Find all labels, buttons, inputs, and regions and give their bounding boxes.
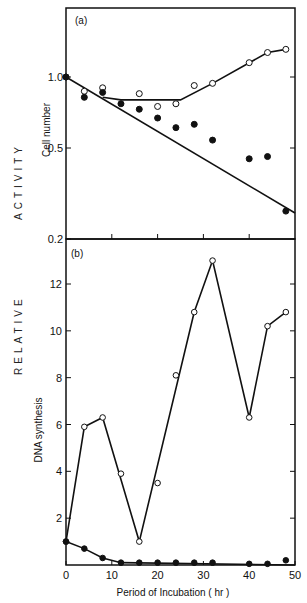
filled-marker bbox=[118, 560, 124, 566]
panel-a-label: (a) bbox=[75, 15, 87, 26]
filled-marker bbox=[81, 94, 87, 100]
x-tick-label: 30 bbox=[197, 569, 209, 581]
series-line bbox=[66, 542, 295, 565]
filled-marker bbox=[136, 560, 142, 566]
filled-marker bbox=[82, 546, 88, 552]
y-tick-label: 2 bbox=[56, 512, 62, 524]
open-marker bbox=[191, 309, 197, 315]
open-marker bbox=[191, 83, 197, 89]
filled-marker bbox=[246, 156, 252, 162]
filled-marker bbox=[173, 560, 179, 566]
filled-marker bbox=[100, 89, 106, 95]
filled-marker bbox=[191, 560, 197, 566]
filled-marker bbox=[155, 115, 161, 121]
open-marker bbox=[265, 323, 271, 329]
open-marker bbox=[118, 471, 124, 477]
y-tick-label: 1.0 bbox=[48, 71, 63, 83]
open-marker bbox=[173, 101, 179, 107]
y-tick-label: 12 bbox=[50, 278, 62, 290]
open-marker bbox=[246, 60, 252, 66]
y-label-activity: ACTIVITY bbox=[13, 143, 24, 220]
filled-marker bbox=[63, 539, 69, 545]
open-marker bbox=[210, 258, 216, 264]
open-marker bbox=[136, 539, 142, 545]
y-tick-label: 8 bbox=[56, 372, 62, 384]
x-axis-label: Period of Incubation ( hr ) bbox=[117, 587, 230, 598]
open-marker bbox=[155, 480, 161, 486]
panel-a-frame bbox=[66, 8, 295, 239]
panel-b-dna-synthesis: (b)2468101201020304050DNA synthesis bbox=[33, 239, 301, 581]
panel-b-label: (b) bbox=[71, 248, 83, 259]
filled-marker bbox=[283, 558, 289, 564]
open-marker bbox=[82, 424, 88, 430]
filled-marker bbox=[283, 208, 289, 214]
fit-line bbox=[103, 49, 286, 100]
open-marker bbox=[155, 103, 161, 109]
x-tick-label: 40 bbox=[243, 569, 255, 581]
filled-marker bbox=[118, 101, 124, 107]
fit-line bbox=[66, 77, 295, 213]
open-marker bbox=[265, 50, 271, 56]
figure-labels: ACTIVITY RELATIVE Period of Incubation (… bbox=[13, 143, 229, 598]
figure: (a)0.20.51.0Cell number (b)2468101201020… bbox=[0, 0, 307, 603]
x-tick-label: 0 bbox=[63, 569, 69, 581]
open-marker bbox=[210, 80, 216, 86]
filled-marker bbox=[191, 121, 197, 127]
open-marker bbox=[246, 415, 252, 421]
panel-a-cell-number: (a)0.20.51.0Cell number bbox=[41, 8, 295, 245]
open-marker bbox=[136, 91, 142, 97]
open-marker bbox=[81, 88, 87, 94]
x-tick-label: 10 bbox=[106, 569, 118, 581]
filled-marker bbox=[210, 560, 216, 566]
filled-marker bbox=[63, 74, 69, 80]
x-tick-label: 20 bbox=[151, 569, 163, 581]
filled-marker bbox=[155, 560, 161, 566]
filled-marker bbox=[136, 106, 142, 112]
x-tick-label: 50 bbox=[289, 569, 301, 581]
open-marker bbox=[283, 309, 289, 315]
y-label-relative: RELATIVE bbox=[13, 295, 24, 375]
filled-marker bbox=[265, 561, 271, 567]
filled-marker bbox=[173, 125, 179, 131]
filled-marker bbox=[246, 561, 252, 567]
series-line bbox=[66, 261, 286, 542]
y-tick-label: 6 bbox=[56, 419, 62, 431]
filled-marker bbox=[265, 154, 271, 160]
y-tick-label: 4 bbox=[56, 465, 62, 477]
y-tick-label: 10 bbox=[50, 325, 62, 337]
open-marker bbox=[283, 46, 289, 52]
open-marker bbox=[173, 373, 179, 379]
y-axis-label-dna-synthesis: DNA synthesis bbox=[33, 397, 44, 462]
y-tick-label: 0.2 bbox=[48, 233, 63, 245]
y-axis-label-cell-number: Cell number bbox=[41, 102, 52, 157]
filled-marker bbox=[210, 137, 216, 143]
panel-b-frame bbox=[66, 239, 295, 565]
filled-marker bbox=[100, 555, 106, 561]
open-marker bbox=[100, 415, 106, 421]
